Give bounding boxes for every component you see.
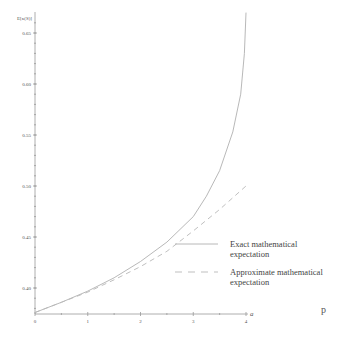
- legend: Exact mathematical expectation Approxima…: [175, 239, 323, 287]
- y-tick-label: 0.50: [22, 184, 31, 189]
- legend-label-exact-line1: Exact mathematical: [230, 239, 298, 249]
- x-tick-label: 4: [245, 319, 248, 324]
- x-axis-label: a: [250, 310, 254, 318]
- y-tick-label: 0.40: [22, 286, 31, 291]
- axes: [35, 12, 248, 314]
- ticks: 0.400.450.500.550.600.6501234: [22, 23, 248, 324]
- series-group: [35, 13, 246, 313]
- legend-label-approx-line2: expectation: [230, 277, 270, 287]
- x-tick-label: 1: [87, 319, 90, 324]
- series-approx-line: [35, 186, 246, 313]
- y-tick-label: 0.55: [22, 133, 31, 138]
- y-tick-label: 0.60: [22, 82, 31, 87]
- series-exact-line: [35, 13, 246, 313]
- x-tick-label: 3: [192, 319, 195, 324]
- x-tick-label: 2: [139, 319, 142, 324]
- y-tick-label: 0.45: [22, 235, 31, 240]
- caption-letter: p: [321, 304, 326, 315]
- legend-label-exact-line2: expectation: [230, 249, 270, 259]
- chart: 0.400.450.500.550.600.6501234 E[κ(S)] a …: [0, 0, 344, 341]
- y-axis-label: E[κ(S)]: [17, 16, 32, 21]
- y-tick-label: 0.65: [22, 31, 31, 36]
- legend-label-approx-line1: Approximate mathematical: [230, 267, 323, 277]
- x-tick-label: 0: [34, 319, 37, 324]
